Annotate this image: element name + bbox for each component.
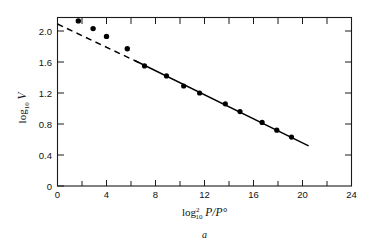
y-axis-right-ticks bbox=[345, 31, 352, 155]
data-point bbox=[104, 34, 109, 39]
svg-text:log210 P/P°: log210 P/P° bbox=[182, 206, 228, 221]
linear-fit-line-solid bbox=[135, 61, 309, 146]
x-tick-label: 12 bbox=[199, 189, 210, 200]
data-point bbox=[181, 83, 186, 88]
x-tick-label: 16 bbox=[248, 189, 259, 200]
x-tick-label: 4 bbox=[104, 189, 109, 200]
y-axis-title: log10 V bbox=[16, 91, 31, 124]
data-point bbox=[164, 73, 169, 78]
y-axis-title-base: log bbox=[16, 109, 28, 124]
y-tick-label: 0.4 bbox=[39, 150, 52, 161]
svg-text:log10 V: log10 V bbox=[16, 91, 31, 124]
data-point bbox=[260, 120, 265, 125]
x-axis-title-variable: P/P° bbox=[204, 206, 227, 218]
figure-part-caption: a bbox=[202, 229, 207, 240]
x-axis-title-base: log bbox=[182, 206, 197, 218]
data-point bbox=[237, 109, 242, 114]
x-axis-tick-labels: 0 4 8 12 16 20 24 bbox=[55, 189, 357, 200]
x-tick-label: 24 bbox=[346, 189, 357, 200]
plot-frame bbox=[58, 18, 352, 187]
extrapolation-line-dashed bbox=[58, 24, 141, 64]
data-point bbox=[142, 63, 147, 68]
data-point bbox=[125, 46, 130, 51]
data-point bbox=[90, 26, 95, 31]
data-point-group bbox=[76, 18, 295, 140]
data-point bbox=[274, 128, 279, 133]
data-point bbox=[289, 135, 294, 140]
y-tick-label: 1.2 bbox=[39, 88, 52, 99]
figure-root: 0 4 8 12 16 20 24 0 0.4 0.8 1.2 1.6 2.0 … bbox=[0, 0, 372, 249]
data-point bbox=[223, 101, 228, 106]
x-axis-title: log210 P/P° bbox=[182, 206, 228, 221]
x-tick-label: 0 bbox=[55, 189, 60, 200]
y-tick-label: 0 bbox=[47, 181, 52, 192]
y-tick-label: 2.0 bbox=[39, 26, 52, 37]
y-axis-title-variable: V bbox=[16, 91, 28, 100]
y-tick-label: 1.6 bbox=[39, 57, 52, 68]
data-point bbox=[76, 18, 81, 23]
x-axis-major-ticks bbox=[58, 180, 352, 186]
y-tick-label: 0.8 bbox=[39, 119, 52, 130]
chart-canvas: 0 4 8 12 16 20 24 0 0.4 0.8 1.2 1.6 2.0 … bbox=[0, 0, 372, 249]
x-tick-label: 8 bbox=[153, 189, 158, 200]
y-axis-tick-labels: 0 0.4 0.8 1.2 1.6 2.0 bbox=[39, 26, 52, 192]
x-axis-top-ticks bbox=[82, 18, 327, 25]
x-tick-label: 20 bbox=[297, 189, 308, 200]
data-point bbox=[197, 90, 202, 95]
y-axis-major-ticks bbox=[58, 31, 65, 186]
